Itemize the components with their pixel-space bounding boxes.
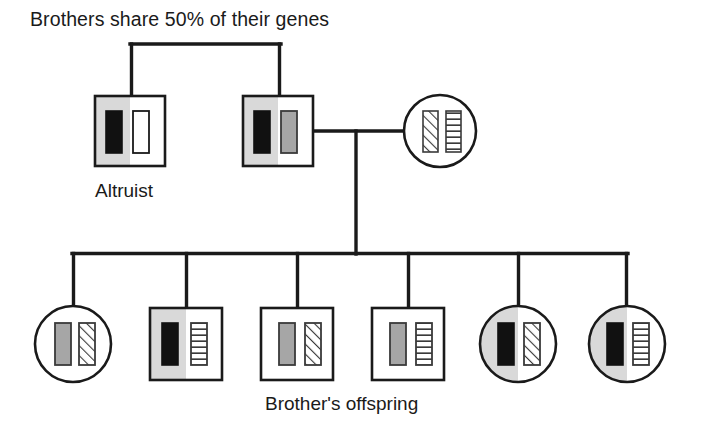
allele-bar-horizontal <box>416 323 432 365</box>
allele-bar-gray <box>281 111 297 153</box>
allele-bar-diagonal <box>524 323 540 365</box>
individual-offspring-3[interactable] <box>261 308 333 380</box>
individual-offspring-5[interactable] <box>480 306 556 382</box>
allele-bar-diagonal <box>79 323 95 365</box>
allele-bar-gray <box>390 323 406 365</box>
pedigree-canvas <box>0 0 703 432</box>
allele-bar-diagonal <box>305 323 321 365</box>
allele-bar-black <box>607 323 623 365</box>
individual-brother[interactable] <box>243 96 313 166</box>
allele-bar-white <box>133 111 149 153</box>
connector-lines <box>72 44 628 307</box>
pedigree-figure: Brothers share 50% of their genes Altrui… <box>0 0 703 432</box>
individual-offspring-2[interactable] <box>150 308 222 380</box>
allele-bar-black <box>254 111 270 153</box>
allele-bar-black <box>106 111 122 153</box>
allele-bar-black <box>162 323 178 365</box>
allele-bar-diagonal <box>423 111 438 152</box>
allele-bar-black <box>498 323 514 365</box>
allele-bar-horizontal <box>446 111 461 152</box>
individual-mate[interactable] <box>404 95 476 167</box>
allele-bar-horizontal <box>633 323 649 365</box>
allele-bar-gray <box>279 323 295 365</box>
allele-bar-gray <box>55 323 71 365</box>
sibship-line-generation2 <box>72 254 628 308</box>
sibship-line-generation1 <box>130 44 281 96</box>
individual-offspring-1[interactable] <box>35 306 111 382</box>
individual-altruist[interactable] <box>95 96 165 166</box>
individual-offspring-6[interactable] <box>589 306 665 382</box>
individual-offspring-4[interactable] <box>372 308 444 380</box>
allele-bar-horizontal <box>191 323 207 365</box>
